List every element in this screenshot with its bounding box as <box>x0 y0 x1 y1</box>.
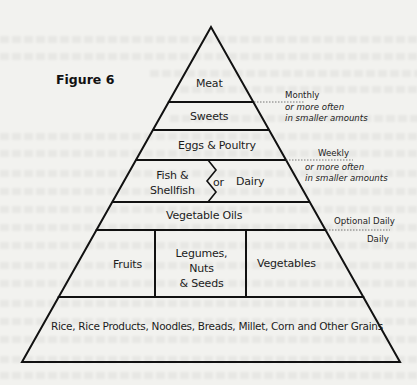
tier-vegetables: Vegetables <box>257 257 316 270</box>
note-weekly-sub1: or more often <box>305 162 388 173</box>
note-monthly-sub2: in smaller amounts <box>285 113 368 124</box>
note-monthly: Monthly or more often in smaller amounts <box>285 90 368 124</box>
tier-fruits: Fruits <box>113 258 142 271</box>
tier-eggs-poultry: Eggs & Poultry <box>178 139 256 152</box>
note-monthly-title: Monthly <box>285 90 368 101</box>
note-monthly-sub2-text: in smaller amounts <box>285 113 368 123</box>
tier-fish-shellfish: Fish & Shellfish <box>150 168 195 198</box>
tier-sweets: Sweets <box>190 110 228 123</box>
note-weekly: Weekly <box>318 148 349 159</box>
tier-dairy: Dairy <box>236 175 264 188</box>
note-weekly-sub2-text: in smaller amounts <box>305 173 388 183</box>
tier-grains: Rice, Rice Products, Noodles, Breads, Mi… <box>51 320 383 333</box>
legumes-label-line1: Legumes, <box>174 246 229 261</box>
note-weekly-sub2: in smaller amounts <box>305 173 388 184</box>
note-monthly-sub1: or more often <box>285 102 368 113</box>
figure-title: Figure 6 <box>56 72 114 87</box>
tier-meat: Meat <box>196 77 223 90</box>
tier-vegetable-oils: Vegetable Oils <box>166 209 242 222</box>
note-weekly-sub1-text: or more often <box>305 162 364 172</box>
note-monthly-sub1-text: or more often <box>285 102 344 112</box>
fish-label-line1: Fish & <box>150 168 195 183</box>
note-daily: Daily <box>367 234 389 245</box>
fish-label-line2: Shellfish <box>150 183 195 198</box>
tier-or: or <box>213 176 224 189</box>
legumes-label-line3: & Seeds <box>174 276 229 291</box>
note-weekly-sub: or more often in smaller amounts <box>305 162 388 184</box>
note-weekly-title: Weekly <box>318 148 349 159</box>
tier-legumes-nuts-seeds: Legumes, Nuts & Seeds <box>174 246 229 291</box>
legumes-label-line2: Nuts <box>174 261 229 276</box>
note-optional-daily: Optional Daily <box>334 216 395 227</box>
